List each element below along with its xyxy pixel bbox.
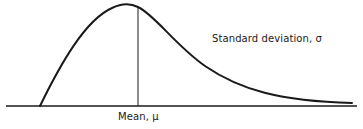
skewed-distribution-diagram xyxy=(0,0,363,129)
distribution-curve xyxy=(40,4,352,106)
standard-deviation-label: Standard deviation, σ xyxy=(212,33,322,44)
mean-label: Mean, μ xyxy=(118,111,159,122)
